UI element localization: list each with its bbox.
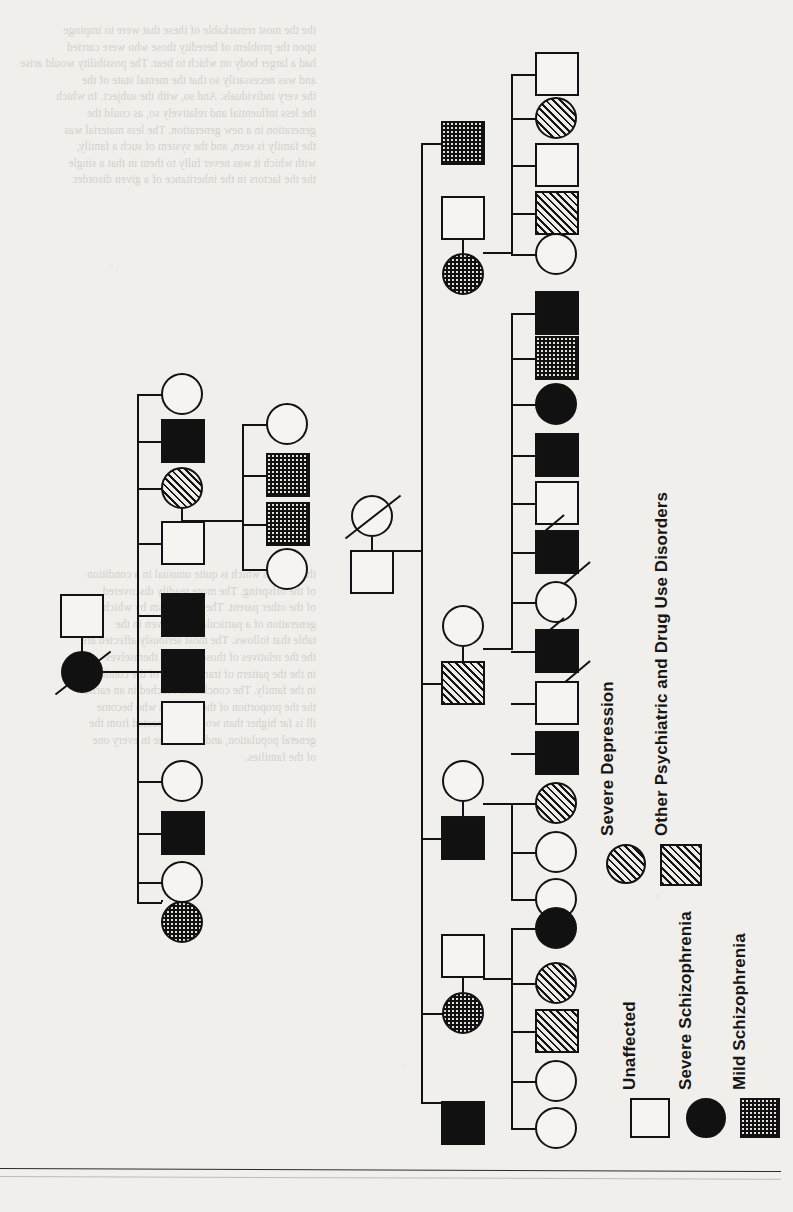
legend-swatch-unaffected — [630, 1098, 670, 1138]
link-sibC-couple — [462, 802, 464, 816]
sib-stub-D — [421, 1013, 443, 1015]
sib-stub — [511, 852, 536, 854]
figure-page: the the most remarkable of these that we… — [0, 0, 793, 1212]
person-sibC-mother — [442, 760, 484, 802]
sib-stub — [511, 455, 536, 457]
person-sibB-child-2 — [535, 336, 579, 380]
person-left-child-2 — [161, 419, 205, 463]
sib-stub — [137, 882, 162, 884]
page-bottom-rule-secondary — [0, 1176, 781, 1180]
main-sibship-spine — [421, 143, 423, 1103]
person-left-child-8 — [161, 760, 203, 802]
sib-stub — [137, 615, 162, 617]
sib-stub-A — [421, 143, 443, 145]
sib-stub — [511, 118, 536, 120]
person-left-founder-male — [60, 594, 104, 638]
marriage-line-sibC — [483, 803, 513, 805]
sib-stub — [511, 651, 536, 653]
sibship-spine-left-sub — [242, 424, 244, 570]
sib-stub — [137, 833, 162, 835]
sib-stub — [137, 543, 162, 545]
sib-stub — [511, 503, 536, 505]
sib-stub — [137, 441, 162, 443]
sib-stub — [511, 803, 536, 805]
legend-swatch-severe-schiz — [686, 1098, 726, 1138]
person-sibB-father — [441, 661, 485, 705]
sib-stub — [137, 671, 162, 673]
sib-stub — [242, 569, 267, 571]
person-left-child-7 — [161, 701, 205, 745]
person-sibB-child-7 — [535, 581, 577, 623]
person-left-child-11 — [161, 901, 203, 943]
sib-stub — [511, 313, 536, 315]
sib-stub-E — [421, 1102, 443, 1104]
person-left-child-4 — [161, 521, 205, 565]
person-left-sub-child-1 — [266, 403, 308, 445]
sib-stub — [511, 1081, 536, 1083]
sib-stub-B — [421, 683, 443, 685]
sib-drop-11 — [161, 900, 163, 902]
legend-swatch-other-psych — [660, 844, 702, 886]
legend-label-unaffected: Unaffected — [620, 1001, 640, 1090]
legend-label-mild-schiz: Mild Schizophrenia — [730, 933, 750, 1090]
person-sibD-mother — [442, 992, 484, 1034]
sib-stub — [511, 983, 536, 985]
sib-stub — [137, 488, 162, 490]
person-sibC-father — [441, 816, 485, 860]
sib-stub — [511, 358, 536, 360]
ghost-text-top: the the most remarkable of these that we… — [16, 22, 316, 188]
link-sibD-couple — [462, 978, 464, 992]
person-sibA-child-4 — [535, 191, 579, 235]
sibship-spine-D2 — [511, 1106, 513, 1130]
sib-stub — [511, 602, 536, 604]
person-left-child-6 — [161, 649, 205, 693]
marriage-line-left-sub — [181, 520, 244, 522]
person-sibD-father — [441, 934, 485, 978]
legend-swatch-severe-depression — [606, 844, 646, 884]
person-sibE-child-1 — [441, 1101, 485, 1145]
sib-stub — [137, 394, 162, 396]
person-left-child-3 — [161, 467, 203, 509]
person-left-sub-child-2 — [266, 453, 310, 497]
sibship-spine-B — [511, 313, 513, 649]
person-sibA-child-5 — [535, 233, 577, 275]
sib-stub — [511, 753, 536, 755]
legend-label-severe-schiz: Severe Schizophrenia — [676, 911, 696, 1090]
marriage-line-sibA — [483, 252, 513, 254]
sib-stub — [511, 165, 536, 167]
sib-stub — [511, 213, 536, 215]
sib-stub — [242, 524, 267, 526]
person-sibA-child-2 — [535, 97, 577, 139]
legend-label-other-psych: Other Psychiatric and Drug Use Disorders — [652, 492, 672, 836]
person-sibD-child-3 — [535, 1009, 579, 1053]
person-sibB-child-10 — [535, 731, 579, 775]
person-sibB-mother — [442, 605, 484, 647]
sib-stub — [511, 1031, 536, 1033]
sib-stub — [137, 781, 162, 783]
person-sibB-child-3 — [535, 383, 577, 425]
person-sibB-child-9 — [535, 681, 579, 725]
sib-stub — [511, 74, 536, 76]
person-sibD-child-5 — [535, 1107, 577, 1149]
sib-stub — [511, 404, 536, 406]
person-sibD-child-4 — [535, 1060, 577, 1102]
sibship-spine-A — [511, 74, 513, 254]
person-sibB-child-6 — [535, 530, 579, 574]
legend-label-severe-depression: Severe Depression — [598, 681, 618, 836]
person-sibA-spouse-female — [442, 253, 484, 295]
sib-stub — [511, 899, 536, 901]
person-sibA-male-mild — [441, 121, 485, 165]
person-sibB-child-1 — [535, 291, 579, 335]
sib-stub — [511, 1128, 536, 1130]
person-left-child-9 — [161, 811, 205, 855]
sib-stub — [511, 703, 536, 705]
sib-stub — [511, 254, 536, 256]
sib-stub-C — [421, 838, 443, 840]
link-right-founder-couple — [371, 537, 373, 551]
marriage-line-sibB — [483, 648, 513, 650]
person-left-sub-child-3 — [266, 502, 310, 546]
sib-stub — [137, 723, 162, 725]
person-sibB-child-4 — [535, 433, 579, 477]
legend-swatch-mild-schiz — [740, 1098, 780, 1138]
marriage-line-left — [103, 671, 138, 673]
